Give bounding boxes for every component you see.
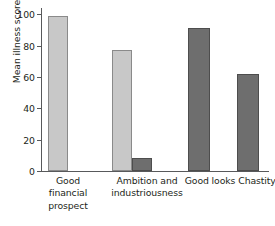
x-axis-line xyxy=(41,171,269,172)
y-tick-mark xyxy=(37,171,41,172)
bar-good-financial-prospect-light xyxy=(48,16,68,171)
y-tick-label: 60 xyxy=(23,71,35,82)
y-tick-label: 100 xyxy=(17,9,35,20)
y-tick-label: 40 xyxy=(23,103,35,114)
x-axis-label-line: Chastity xyxy=(231,175,275,187)
bar-ambition-industriousness-dark xyxy=(132,158,152,171)
bar-ambition-industriousness-light xyxy=(112,50,132,171)
y-axis-line xyxy=(41,8,42,172)
y-tick-label: 20 xyxy=(23,134,35,145)
x-axis-label-line: prospect xyxy=(32,200,104,212)
y-tick-mark xyxy=(37,14,41,15)
x-axis-label-0: Goodfinancialprospect xyxy=(32,175,104,212)
x-axis-label-line: financial xyxy=(32,187,104,199)
plot-area: 020406080100 xyxy=(41,8,269,172)
x-axis-label-line: industriousness xyxy=(96,187,198,199)
bar-good-looks-dark xyxy=(188,28,210,171)
bar-chart-figure: Mean illness score 020406080100 Goodfina… xyxy=(0,0,275,226)
y-tick-label: 80 xyxy=(23,40,35,51)
y-tick-mark xyxy=(37,77,41,78)
x-axis-labels: GoodfinancialprospectAmbition andindustr… xyxy=(41,175,275,226)
x-axis-label-line: Good xyxy=(32,175,104,187)
y-tick-mark xyxy=(37,140,41,141)
y-tick-mark xyxy=(37,108,41,109)
bar-chastity-dark xyxy=(237,74,259,171)
x-axis-label-3: Chastity xyxy=(231,175,275,187)
y-tick-mark xyxy=(37,46,41,47)
